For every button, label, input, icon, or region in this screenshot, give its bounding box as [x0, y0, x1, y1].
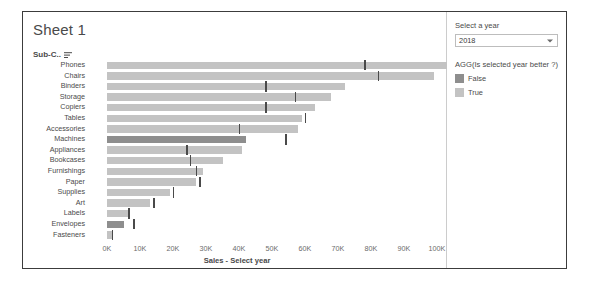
- bar-row[interactable]: Accessories: [23, 124, 451, 135]
- bar-row[interactable]: Storage: [23, 92, 451, 103]
- bar[interactable]: [107, 221, 124, 229]
- legend-swatch: [455, 88, 464, 97]
- legend-item[interactable]: False: [455, 74, 558, 83]
- bar-row[interactable]: Bookcases: [23, 155, 451, 166]
- bar[interactable]: [107, 125, 298, 133]
- bar-row[interactable]: Binders: [23, 81, 451, 92]
- row-field-label: Sub-C..: [33, 50, 61, 59]
- bar-row-label: Storage: [60, 92, 85, 103]
- year-select-value: 2018: [459, 36, 475, 45]
- bar-row[interactable]: Envelopes: [23, 219, 451, 230]
- legend: FalseTrue: [455, 74, 558, 97]
- bar-row[interactable]: Fasteners: [23, 230, 451, 241]
- year-filter-label: Select a year: [455, 21, 558, 30]
- bar[interactable]: [107, 83, 345, 91]
- worksheet-panel: Sheet 1 Sub-C.. PhonesChairsBindersStora…: [23, 12, 447, 268]
- reference-line-marker: [265, 102, 266, 112]
- bar-row[interactable]: Supplies: [23, 187, 451, 198]
- dashboard-container: Sheet 1 Sub-C.. PhonesChairsBindersStora…: [22, 11, 567, 269]
- bar-row-label: Binders: [61, 81, 85, 92]
- bar-row-label: Copiers: [60, 102, 85, 113]
- reference-line-marker: [285, 134, 286, 144]
- reference-line-marker: [305, 113, 306, 123]
- legend-title: AGG(Is selected year better ?): [455, 60, 558, 69]
- bar-row-label: Art: [76, 198, 85, 209]
- chevron-down-icon[interactable]: [547, 39, 553, 42]
- bar-row[interactable]: Phones: [23, 60, 451, 71]
- bar[interactable]: [107, 104, 315, 112]
- x-axis-tick: 60K: [299, 244, 312, 253]
- reference-line-marker: [186, 145, 187, 155]
- legend-label: False: [468, 74, 486, 83]
- year-select[interactable]: 2018: [455, 34, 558, 47]
- x-axis-title: Sales - Select year: [23, 256, 451, 265]
- bar-row-label: Appliances: [50, 145, 85, 156]
- reference-line-marker: [128, 208, 129, 218]
- reference-line-marker: [190, 155, 191, 165]
- bar[interactable]: [107, 136, 246, 144]
- x-axis-tick: 20K: [167, 244, 180, 253]
- reference-line-marker: [239, 124, 240, 134]
- bar-row-label: Tables: [64, 113, 85, 124]
- row-field-header[interactable]: Sub-C..: [33, 50, 72, 59]
- x-axis-tick: 70K: [332, 244, 345, 253]
- bar-row[interactable]: Art: [23, 198, 451, 209]
- reference-line-marker: [196, 166, 197, 176]
- bar-row[interactable]: Paper: [23, 177, 451, 188]
- bar-row-label: Chairs: [64, 71, 85, 82]
- bar-row-label: Paper: [66, 177, 85, 188]
- x-axis: 0K10K20K30K40K50K60K70K80K90K100K110K: [23, 244, 451, 256]
- x-axis-tick: 100K: [429, 244, 446, 253]
- bar[interactable]: [107, 62, 454, 70]
- bar-row-label: Labels: [64, 208, 85, 219]
- bar-row[interactable]: Furnishings: [23, 166, 451, 177]
- bar[interactable]: [107, 157, 223, 165]
- bar-row[interactable]: Tables: [23, 113, 451, 124]
- bar-row-label: Fasteners: [53, 230, 85, 241]
- bar-row-label: Machines: [54, 134, 85, 145]
- x-axis-tick: 50K: [266, 244, 279, 253]
- bar[interactable]: [107, 146, 242, 154]
- bar[interactable]: [107, 189, 170, 197]
- bar-chart-plot: PhonesChairsBindersStorageCopiersTablesA…: [23, 60, 451, 240]
- bar[interactable]: [107, 93, 331, 101]
- x-axis-tick: 0K: [103, 244, 112, 253]
- bar-row-label: Accessories: [46, 124, 85, 135]
- x-axis-tick: 40K: [233, 244, 246, 253]
- bar-row[interactable]: Chairs: [23, 71, 451, 82]
- legend-item[interactable]: True: [455, 88, 558, 97]
- reference-line-marker: [173, 187, 174, 197]
- reference-line-marker: [199, 177, 200, 187]
- bar[interactable]: [107, 115, 302, 123]
- sort-descending-icon[interactable]: [64, 51, 72, 59]
- bar-row-label: Supplies: [57, 187, 85, 198]
- bar[interactable]: [107, 178, 196, 186]
- bar-row[interactable]: Copiers: [23, 102, 451, 113]
- reference-line-marker: [364, 60, 365, 70]
- bar-row[interactable]: Labels: [23, 208, 451, 219]
- bar-row-label: Envelopes: [51, 219, 85, 230]
- reference-line-marker: [265, 81, 266, 91]
- bar[interactable]: [107, 168, 203, 176]
- bar-row-label: Phones: [61, 60, 85, 71]
- x-axis-tick: 30K: [200, 244, 213, 253]
- legend-label: True: [468, 88, 483, 97]
- bar-row[interactable]: Appliances: [23, 145, 451, 156]
- bar-row-label: Furnishings: [48, 166, 85, 177]
- reference-line-marker: [133, 219, 134, 229]
- bar[interactable]: [107, 199, 150, 207]
- reference-line-marker: [378, 71, 379, 81]
- reference-line-marker: [295, 92, 296, 102]
- reference-line-marker: [153, 198, 154, 208]
- bar-row[interactable]: Machines: [23, 134, 451, 145]
- legend-swatch: [455, 74, 464, 83]
- x-axis-tick: 10K: [134, 244, 147, 253]
- bar[interactable]: [107, 210, 130, 218]
- reference-line-marker: [112, 230, 113, 240]
- bar-row-label: Bookcases: [50, 155, 85, 166]
- bar[interactable]: [107, 72, 434, 80]
- x-axis-tick: 80K: [365, 244, 378, 253]
- x-axis-tick: 90K: [398, 244, 411, 253]
- page-title: Sheet 1: [33, 21, 86, 38]
- controls-panel: Select a year 2018 AGG(Is selected year …: [447, 12, 566, 268]
